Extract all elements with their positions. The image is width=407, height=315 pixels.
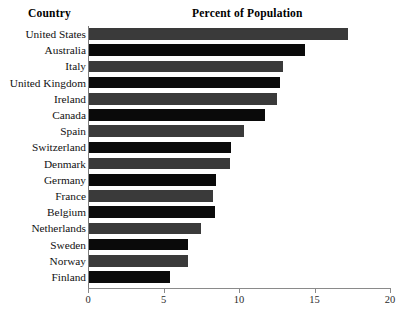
x-tick-mark [315,288,316,293]
category-label: Italy [65,58,86,74]
bar [89,28,348,40]
x-tick-label: 15 [309,294,320,305]
category-label: France [55,188,86,204]
category-label: Sweden [50,237,86,253]
bar-row: United Kingdom [0,75,407,91]
bar-row: United States [0,26,407,42]
bar-row: Switzerland [0,139,407,155]
country-column-header: Country [28,7,71,19]
bar [89,61,283,73]
category-label: Australia [45,42,86,58]
x-tick-label: 20 [385,294,396,305]
x-tick-mark [164,288,165,293]
bar-chart: Country Percent of Population United Sta… [0,0,407,315]
x-tick-mark [390,288,391,293]
x-tick-label: 5 [161,294,166,305]
category-label: Spain [60,123,86,139]
bar [89,255,188,267]
bar-row: Italy [0,58,407,74]
bar [89,93,277,105]
x-tick-mark [88,288,89,293]
bar-row: Ireland [0,91,407,107]
bar [89,223,201,235]
bar [89,125,244,137]
category-label: Norway [50,253,86,269]
bar [89,271,170,283]
bar-row: Spain [0,123,407,139]
chart-title: Percent of Population [192,7,303,19]
category-label: Denmark [44,156,86,172]
bar [89,239,188,251]
category-label: Canada [52,107,86,123]
category-label: United States [25,26,86,42]
bar [89,158,230,170]
bar-row: Belgium [0,204,407,220]
bar [89,174,216,186]
category-label: Ireland [54,91,86,107]
bar-row: Sweden [0,237,407,253]
bar [89,109,265,121]
bar [89,142,231,154]
bar-row: Denmark [0,156,407,172]
category-label: Belgium [47,204,86,220]
category-label: United Kingdom [10,75,86,91]
category-label: Finland [51,269,86,285]
category-label: Netherlands [31,220,86,236]
x-tick-label: 10 [234,294,245,305]
bar-row: Netherlands [0,220,407,236]
x-tick-mark [239,288,240,293]
bar-row: Norway [0,253,407,269]
bar-row: Australia [0,42,407,58]
bar-row: Canada [0,107,407,123]
x-tick-label: 0 [85,294,90,305]
category-label: Switzerland [32,139,86,155]
bar-row: Germany [0,172,407,188]
bar [89,44,305,56]
bar [89,77,280,89]
category-label: Germany [44,172,86,188]
bar-row: France [0,188,407,204]
bar [89,190,213,202]
bar [89,206,215,218]
bar-row: Finland [0,269,407,285]
